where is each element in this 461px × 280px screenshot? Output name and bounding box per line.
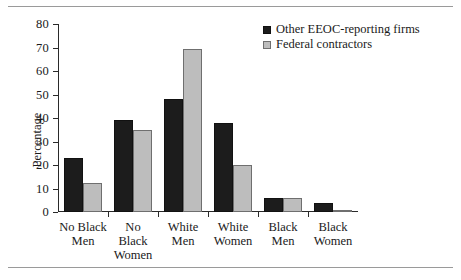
bar-group: Black Men: [258, 24, 308, 212]
y-axis-tick-label: 70: [36, 40, 49, 55]
bar: [183, 49, 202, 212]
bar: [314, 203, 333, 212]
x-axis-tick: [308, 212, 309, 217]
x-axis-category-label: White Men: [158, 220, 208, 248]
bar: [83, 183, 102, 212]
x-axis-category-label: White Women: [208, 220, 258, 248]
bar-group: No Black Men: [58, 24, 108, 212]
black-square-icon: [263, 26, 271, 34]
bar: [333, 210, 352, 212]
bar: [164, 99, 183, 212]
x-axis-category-label: No Black Men: [58, 220, 108, 248]
legend-item-label: Federal contractors: [276, 37, 372, 52]
bar-group: White Men: [158, 24, 208, 212]
y-axis-tick-label: 30: [36, 134, 49, 149]
bar: [114, 120, 133, 212]
top-divider-rule: [8, 6, 453, 7]
bar-group: White Women: [208, 24, 258, 212]
y-axis-tick-label: 80: [36, 17, 49, 32]
gray-square-icon: [263, 41, 271, 49]
x-axis-category-label: Black Women: [308, 220, 358, 248]
y-axis-tick-label: 60: [36, 64, 49, 79]
x-axis-category-label: No Black Women: [108, 220, 158, 262]
bar: [283, 198, 302, 212]
x-axis-tick: [208, 212, 209, 217]
legend-item: Other EEOC-reporting firms: [263, 22, 420, 37]
bar: [133, 130, 152, 212]
legend-item: Federal contractors: [263, 37, 420, 52]
x-axis-tick: [258, 212, 259, 217]
x-axis-tick: [158, 212, 159, 217]
plot-area: 01020304050607080No Black MenNo Black Wo…: [58, 24, 358, 212]
chart-legend: Other EEOC-reporting firmsFederal contra…: [263, 22, 420, 52]
x-axis-tick: [108, 212, 109, 217]
bar: [233, 165, 252, 212]
y-axis-tick-label: 0: [43, 205, 49, 220]
y-axis-tick-label: 20: [36, 158, 49, 173]
y-axis-tick: [53, 212, 58, 213]
y-axis-tick-label: 50: [36, 87, 49, 102]
bar: [214, 123, 233, 212]
bar: [264, 198, 283, 212]
x-axis-category-label: Black Men: [258, 220, 308, 248]
bar: [64, 158, 83, 212]
y-axis-tick-label: 10: [36, 181, 49, 196]
y-axis-tick-label: 40: [36, 111, 49, 126]
bar-chart-figure: Percentage 01020304050607080No Black Men…: [0, 0, 461, 280]
bar-group: Black Women: [308, 24, 358, 212]
bar-group: No Black Women: [108, 24, 158, 212]
bottom-divider-rule: [8, 267, 453, 268]
legend-item-label: Other EEOC-reporting firms: [276, 22, 420, 37]
